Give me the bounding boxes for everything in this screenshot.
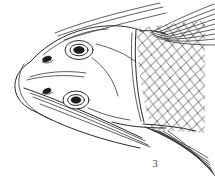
fish-head-illustration: [0, 0, 215, 181]
figure-container: 3: [0, 0, 215, 181]
upper-eye-pupil: [74, 47, 85, 54]
upper-eye: [65, 41, 93, 60]
figure-number-label: 3: [140, 156, 170, 170]
lower-eye: [63, 91, 89, 109]
lower-eye-pupil: [71, 97, 81, 103]
